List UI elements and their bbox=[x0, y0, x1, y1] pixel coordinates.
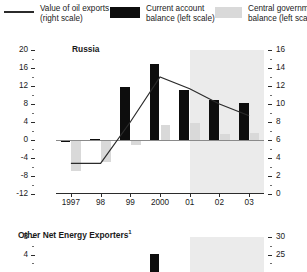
x-tick-mark bbox=[190, 194, 191, 197]
legend-label-line2: (right scale) bbox=[40, 14, 83, 23]
y-minor-tick-right bbox=[270, 95, 272, 96]
y-tick-mark-left bbox=[31, 176, 35, 177]
y-tick-label-right: 6 bbox=[276, 135, 294, 144]
x-tick-mark bbox=[249, 194, 250, 197]
y-minor-tick-left bbox=[32, 185, 34, 186]
y-minor-tick-left bbox=[32, 59, 34, 60]
y-tick-label-left: 0 bbox=[4, 135, 28, 144]
legend-label-line1: Current account bbox=[146, 4, 204, 13]
y-tick-label-right: 10 bbox=[276, 99, 294, 108]
legend-label-oil-exports: Value of oil exports (right scale) bbox=[40, 4, 109, 25]
y-tick-mark-right bbox=[268, 237, 272, 238]
y-tick-label-right: 2 bbox=[276, 171, 294, 180]
y-tick-label-left: 8 bbox=[4, 232, 28, 241]
chart-legend: Value of oil exports (right scale) Curre… bbox=[0, 0, 307, 36]
y-minor-tick-left bbox=[32, 167, 34, 168]
y-tick-label-left: -12 bbox=[4, 189, 28, 198]
y-tick-mark-right bbox=[268, 122, 272, 123]
y-minor-tick-left bbox=[32, 131, 34, 132]
y-tick-label-right: 0 bbox=[276, 189, 294, 198]
y-minor-tick-right bbox=[270, 263, 272, 264]
y-minor-tick-right bbox=[270, 246, 272, 247]
legend-label-line1: Central government bbox=[248, 4, 307, 13]
y-tick-label-left: -8 bbox=[4, 171, 28, 180]
y-tick-mark-right bbox=[268, 104, 272, 105]
y-minor-tick-right bbox=[270, 59, 272, 60]
y-tick-mark-right bbox=[268, 50, 272, 51]
chart-panel-other-exporters: Other Net Energy Exporters1 84 3025 bbox=[0, 215, 307, 272]
x-tick-mark bbox=[219, 194, 220, 197]
y-tick-label-right: 16 bbox=[276, 45, 294, 54]
y-tick-label-right: 30 bbox=[276, 232, 294, 241]
plot-area-other-exporters bbox=[56, 237, 264, 272]
y-tick-mark-left bbox=[31, 140, 35, 141]
y-tick-mark-right bbox=[268, 158, 272, 159]
y-tick-label-right: 25 bbox=[276, 250, 294, 259]
y-tick-label-right: 12 bbox=[276, 81, 294, 90]
y-minor-tick-right bbox=[270, 185, 272, 186]
y-tick-mark-left bbox=[31, 122, 35, 123]
x-tick-mark bbox=[101, 194, 102, 197]
y-tick-mark-left bbox=[31, 255, 35, 256]
y-tick-mark-right bbox=[268, 176, 272, 177]
line-series-oil-exports bbox=[56, 50, 264, 194]
legend-label-current-account: Current account balance (left scale) bbox=[146, 4, 215, 25]
y-tick-mark-right bbox=[268, 255, 272, 256]
line-swatch-icon bbox=[4, 11, 34, 13]
y-tick-label-left: 20 bbox=[4, 45, 28, 54]
y-minor-tick-left bbox=[32, 95, 34, 96]
x-tick-mark bbox=[71, 194, 72, 197]
y-tick-mark-left bbox=[31, 68, 35, 69]
y-minor-tick-right bbox=[270, 167, 272, 168]
y-tick-mark-left bbox=[31, 86, 35, 87]
legend-label-line1: Value of oil exports bbox=[40, 4, 109, 13]
plot-area-russia bbox=[56, 50, 264, 194]
y-tick-label-left: 12 bbox=[4, 81, 28, 90]
y-minor-tick-left bbox=[32, 246, 34, 247]
y-tick-label-right: 4 bbox=[276, 153, 294, 162]
y-tick-mark-right bbox=[268, 68, 272, 69]
y-minor-tick-right bbox=[270, 149, 272, 150]
legend-label-line2: balance (left scale) bbox=[146, 14, 215, 23]
legend-label-central-government: Central government balance (left scale) bbox=[248, 4, 307, 25]
y-tick-mark-left bbox=[31, 194, 35, 195]
y-tick-label-left: 4 bbox=[4, 250, 28, 259]
y-minor-tick-left bbox=[32, 149, 34, 150]
y-tick-label-left: 8 bbox=[4, 99, 28, 108]
y-tick-mark-left bbox=[31, 237, 35, 238]
y-tick-mark-left bbox=[31, 158, 35, 159]
y-minor-tick-right bbox=[270, 131, 272, 132]
black-square-swatch-icon bbox=[110, 7, 140, 18]
y-tick-label-right: 8 bbox=[276, 117, 294, 126]
chart-panel-russia: Russia 201612840-4-8-12 1614121086420 19… bbox=[0, 36, 307, 196]
y-minor-tick-right bbox=[270, 77, 272, 78]
projection-band bbox=[190, 237, 264, 272]
y-tick-mark-right bbox=[268, 140, 272, 141]
y-tick-label-left: 16 bbox=[4, 63, 28, 72]
panel-title-footnote-marker: 1 bbox=[128, 229, 131, 235]
x-tick-mark bbox=[160, 194, 161, 197]
y-minor-tick-left bbox=[32, 263, 34, 264]
y-tick-label-left: 4 bbox=[4, 117, 28, 126]
y-minor-tick-left bbox=[32, 113, 34, 114]
y-minor-tick-left bbox=[32, 77, 34, 78]
bar-current-account-2000 bbox=[150, 254, 160, 272]
y-minor-tick-right bbox=[270, 113, 272, 114]
y-tick-label-right: 14 bbox=[276, 63, 294, 72]
y-tick-mark-left bbox=[31, 104, 35, 105]
grey-square-swatch-icon bbox=[215, 7, 242, 18]
y-tick-label-left: -4 bbox=[4, 153, 28, 162]
x-tick-mark bbox=[130, 194, 131, 197]
x-tick-label-03: 03 bbox=[232, 198, 266, 207]
y-tick-mark-right bbox=[268, 194, 272, 195]
y-tick-mark-right bbox=[268, 86, 272, 87]
legend-label-line2: balance (left scale) bbox=[248, 14, 307, 23]
y-tick-mark-left bbox=[31, 50, 35, 51]
